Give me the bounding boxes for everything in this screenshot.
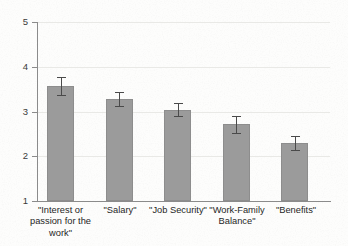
error-bar-cap-top-4 [291, 136, 300, 137]
error-bar-line-4 [295, 136, 296, 150]
x-axis-label-4: "Benefits" [263, 205, 329, 216]
y-axis-line [37, 22, 38, 202]
y-tick-mark-2 [32, 156, 37, 157]
y-tick-mark-5 [32, 22, 37, 23]
bar-0 [47, 86, 74, 201]
bar-3 [223, 124, 250, 201]
gridline-5 [38, 22, 330, 23]
error-bar-cap-top-3 [232, 116, 241, 117]
bar-2 [164, 110, 191, 201]
bar-1 [106, 99, 133, 201]
bar-4 [281, 143, 308, 201]
error-bar-cap-top-2 [174, 103, 183, 104]
bar-chart-figure: 5 4 3 2 1 "Interest or passion for the w… [0, 0, 348, 246]
axis-baseline [37, 201, 331, 202]
y-tick-mark-3 [32, 112, 37, 113]
y-tick-label-5: 5 [4, 17, 28, 27]
plot-area: 5 4 3 2 1 "Interest or passion for the w… [0, 0, 348, 246]
y-tick-label-2: 2 [4, 151, 28, 161]
error-bar-cap-bottom-3 [232, 133, 241, 134]
error-bar-cap-bottom-1 [115, 106, 124, 107]
error-bar-cap-bottom-0 [57, 95, 66, 96]
y-tick-mark-4 [32, 67, 37, 68]
error-bar-cap-top-0 [57, 77, 66, 78]
y-tick-mark-1 [32, 201, 37, 202]
error-bar-cap-top-1 [115, 92, 124, 93]
y-tick-label-4: 4 [4, 62, 28, 72]
error-bar-line-1 [119, 92, 120, 106]
error-bar-line-0 [61, 77, 62, 95]
error-bar-cap-bottom-4 [291, 150, 300, 151]
error-bar-line-3 [236, 116, 237, 133]
error-bar-line-2 [178, 103, 179, 116]
y-tick-label-3: 3 [4, 107, 28, 117]
gridline-4 [38, 67, 330, 68]
error-bar-cap-bottom-2 [174, 116, 183, 117]
